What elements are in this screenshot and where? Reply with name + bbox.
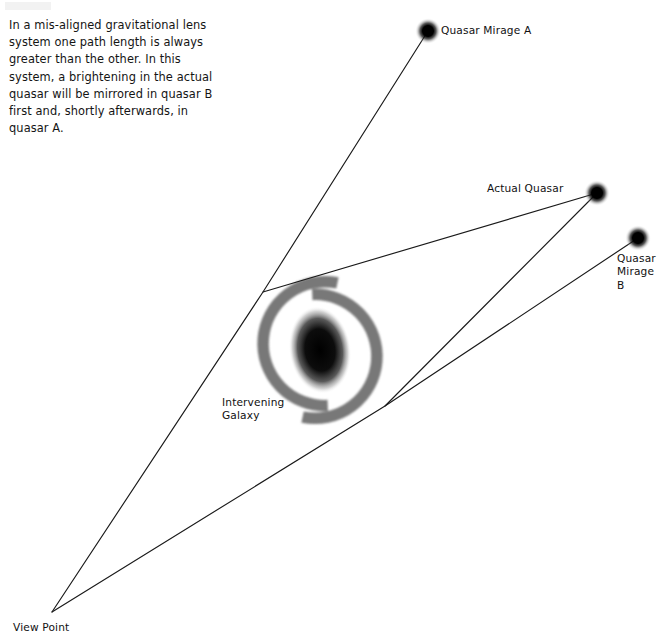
light-path-true-upper [263, 193, 597, 292]
label-actual-quasar: Actual Quasar [487, 182, 563, 195]
figure-caption: In a mis-aligned gravitational lens syst… [9, 17, 219, 137]
quasar-markers [415, 18, 651, 251]
galaxy-core [283, 302, 357, 398]
label-quasar-mirage-a: Quasar Mirage A [441, 24, 531, 37]
actual-quasar-dot [584, 180, 610, 206]
quasar-mirage-a-dot [415, 18, 441, 44]
gravitational-lens-figure: In a mis-aligned gravitational lens syst… [0, 0, 665, 639]
label-quasar-mirage-b: Quasar Mirage B [617, 252, 656, 292]
light-path-apparent-mirage-b [52, 238, 638, 612]
label-view-point: View Point [13, 621, 69, 634]
label-intervening-galaxy: Intervening Galaxy [222, 396, 284, 423]
quasar-mirage-b-dot [625, 225, 651, 251]
